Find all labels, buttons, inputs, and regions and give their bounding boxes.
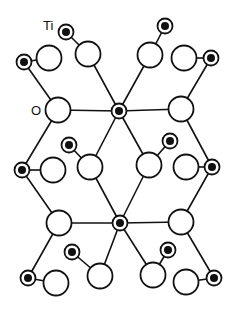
titanium-atom xyxy=(59,25,74,40)
titanium-atom xyxy=(113,216,128,231)
crystal-structure-diagram xyxy=(0,0,234,311)
titanium-atom xyxy=(205,160,220,175)
titanium-atom xyxy=(112,104,127,119)
titanium-atom xyxy=(17,55,32,70)
titanium-atom xyxy=(65,245,80,260)
oxygen-atoms xyxy=(37,42,199,296)
titanium-atom xyxy=(158,19,173,34)
oxygen-atom xyxy=(41,158,66,183)
titanium-atom xyxy=(207,271,222,286)
ti-label: Ti xyxy=(43,18,53,33)
oxygen-atom xyxy=(169,210,194,235)
oxygen-atom xyxy=(169,97,194,122)
titanium-atom xyxy=(204,51,219,66)
oxygen-atom xyxy=(141,263,166,288)
oxygen-atom xyxy=(137,153,162,178)
oxygen-atom xyxy=(172,46,197,71)
oxygen-atom xyxy=(138,43,163,68)
oxygen-atom xyxy=(174,270,199,295)
titanium-atom xyxy=(163,134,178,149)
oxygen-atom xyxy=(174,155,199,180)
titanium-atom xyxy=(161,243,176,258)
oxygen-atom xyxy=(88,264,113,289)
oxygen-atom xyxy=(78,155,103,180)
oxygen-atom xyxy=(44,271,69,296)
o-label: O xyxy=(31,103,41,118)
oxygen-atom xyxy=(37,46,62,71)
oxygen-atom xyxy=(76,42,101,67)
oxygen-atom xyxy=(46,98,71,123)
titanium-atom xyxy=(21,271,36,286)
titanium-atom xyxy=(15,163,30,178)
oxygen-atom xyxy=(47,211,72,236)
titanium-atom xyxy=(62,138,77,153)
